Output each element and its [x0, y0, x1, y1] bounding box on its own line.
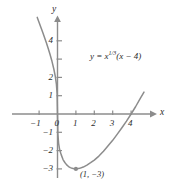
minimum-point-marker	[74, 167, 78, 171]
equation-lhs: y =	[90, 51, 105, 61]
x-tick-label-3: 3	[110, 119, 115, 128]
minimum-point-label: (1, −3)	[80, 170, 104, 179]
y-tick-label--3: −3	[43, 164, 54, 173]
y-axis-label: y	[52, 5, 56, 15]
function-curve	[37, 17, 144, 169]
coordinate-plot	[0, 0, 170, 189]
y-axis-arrowhead	[54, 16, 61, 23]
x-axis-label: x	[160, 108, 164, 118]
y-tick-label--2: −2	[43, 146, 54, 155]
equation-factor: (x − 4)	[116, 51, 141, 61]
y-tick-label-1: 1	[49, 91, 54, 100]
equation-label: y = x1/3(x − 4)	[90, 52, 141, 61]
x-axis-arrowhead	[150, 111, 157, 118]
y-tick-label-2: 2	[49, 73, 54, 82]
graph-figure: x y y = x1/3(x − 4) (1, −3) −101234−3−2−…	[0, 0, 170, 189]
x-tick-label-4: 4	[128, 119, 133, 128]
x-tick-label-2: 2	[91, 119, 96, 128]
y-tick-label--1: −1	[43, 128, 54, 137]
y-tick-label-4: 4	[49, 36, 54, 45]
x-tick-label--1: −1	[30, 119, 41, 128]
x-axis	[12, 111, 157, 118]
x-tick-label-0: 0	[55, 119, 60, 128]
x-tick-label-1: 1	[73, 119, 78, 128]
